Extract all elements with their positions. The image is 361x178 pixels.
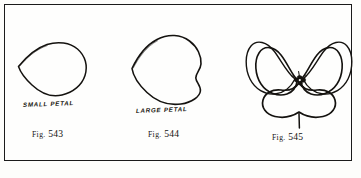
plate-border — [4, 4, 352, 161]
illustration-plate: SMALL PETAL Fig. 543 LARGE PETAL Fig. 54… — [0, 0, 361, 178]
